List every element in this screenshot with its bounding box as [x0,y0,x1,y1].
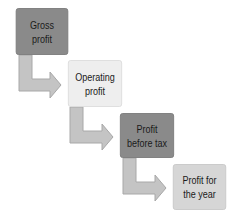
elbow-arrow-icon [70,107,113,150]
node-label: Profit for the year [174,173,226,201]
node-label: Gross profit [17,18,68,46]
node-profit-for-the-year: Profit for the year [173,164,226,210]
node-label: Operating profit [69,70,121,98]
node-profit-before-tax: Profit before tax [120,113,174,158]
elbow-arrow-icon [123,158,166,201]
node-label: Profit before tax [121,122,173,150]
elbow-arrow-icon [19,55,61,98]
node-gross-profit: Gross profit [16,8,68,55]
profit-flow-diagram: Gross profit Operating profit Profit bef… [0,0,237,220]
node-operating-profit: Operating profit [68,60,122,107]
